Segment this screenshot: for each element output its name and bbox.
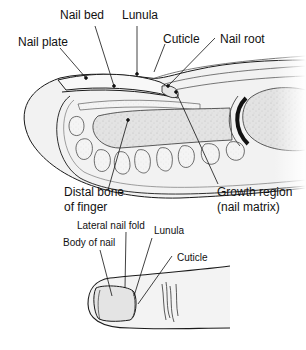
label-body-of-nail: Body of nail bbox=[63, 237, 115, 248]
label-nail-plate: Nail plate bbox=[18, 36, 68, 49]
label-nail-root: Nail root bbox=[220, 33, 265, 46]
fingernail-anatomy-diagram bbox=[0, 0, 306, 350]
label-nail-bed: Nail bed bbox=[60, 9, 104, 22]
label-distal-bone-2: of finger bbox=[64, 201, 107, 214]
label-exterior-lunula: Lunula bbox=[154, 225, 184, 236]
label-growth-region-2: (nail matrix) bbox=[217, 201, 280, 214]
label-lateral-nail-fold: Lateral nail fold bbox=[77, 220, 145, 231]
label-lunula: Lunula bbox=[122, 9, 158, 22]
label-exterior-cuticle: Cuticle bbox=[177, 252, 208, 263]
exterior-finger-illustration bbox=[88, 260, 306, 340]
label-growth-region-1: Growth region bbox=[217, 186, 292, 199]
label-distal-bone-1: Distal bone bbox=[64, 186, 124, 199]
label-cuticle: Cuticle bbox=[163, 33, 200, 46]
